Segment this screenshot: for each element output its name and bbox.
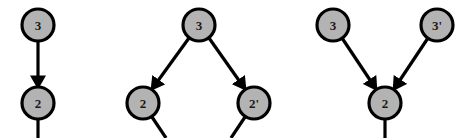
edge-3-to-2 <box>152 38 189 89</box>
edge-3-prime-to-2 <box>394 38 428 89</box>
node-label-2: 2 <box>35 96 42 111</box>
edge-3-to-2 <box>342 38 376 89</box>
join-panel: 3 3' 2 <box>317 9 453 138</box>
node-label-2: 2 <box>382 96 389 111</box>
node-label-3: 3 <box>196 18 203 33</box>
graph-canvas: 3 2 3 2 2' 3 3' 2 <box>0 0 474 138</box>
node-label-2-prime: 2' <box>249 96 259 111</box>
node-label-3: 3 <box>35 18 42 33</box>
edge-3-to-2-prime <box>209 38 245 89</box>
node-label-3-prime: 3' <box>432 18 442 33</box>
edge-tail-from-2-prime <box>231 117 245 138</box>
node-label-3: 3 <box>330 18 337 33</box>
graph-figure: 3 2 3 2 2' 3 3' 2 <box>0 0 474 138</box>
edge-tail-from-2 <box>152 117 166 138</box>
single-chain-panel: 3 2 <box>22 9 54 138</box>
fork-panel: 3 2 2' <box>127 9 270 138</box>
node-label-2: 2 <box>140 96 147 111</box>
